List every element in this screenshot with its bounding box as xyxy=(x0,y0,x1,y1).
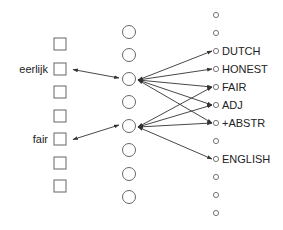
output-label: FAIR xyxy=(222,81,247,93)
output-unit-circle xyxy=(213,66,218,71)
hidden-layer xyxy=(123,26,136,204)
hidden-unit-circle xyxy=(123,26,136,39)
connection-arrows xyxy=(73,51,212,159)
hidden-unit-circle xyxy=(123,191,136,204)
output-unit-circle xyxy=(213,174,218,179)
input-unit-square xyxy=(54,110,66,122)
hidden-unit-circle xyxy=(123,73,136,86)
output-unit-circle xyxy=(213,30,218,35)
output-label: DUTCH xyxy=(222,45,261,57)
bidirectional-arrow xyxy=(73,125,119,140)
output-label: HONEST xyxy=(222,63,268,75)
output-unit-circle xyxy=(213,84,218,89)
bidirectional-arrow xyxy=(138,51,212,80)
output-layer: DUTCHHONESTFAIRADJ+ABSTRENGLISH xyxy=(213,12,270,215)
input-unit-square xyxy=(54,63,66,75)
hidden-unit-circle xyxy=(123,120,136,133)
output-unit-circle xyxy=(213,156,218,161)
hidden-unit-circle xyxy=(123,168,136,181)
bidirectional-arrow xyxy=(138,69,212,80)
output-label: ENGLISH xyxy=(222,153,270,165)
output-label: +ABSTR xyxy=(222,117,265,129)
hidden-unit-circle xyxy=(123,49,136,62)
bidirectional-arrow xyxy=(138,87,212,127)
input-unit-square xyxy=(54,157,66,169)
hidden-unit-circle xyxy=(123,144,136,157)
output-unit-circle xyxy=(213,192,218,197)
output-unit-circle xyxy=(213,12,218,17)
input-label: eerlijk xyxy=(19,63,48,75)
output-label: ADJ xyxy=(222,99,243,111)
bidirectional-arrow xyxy=(73,70,119,79)
hidden-unit-circle xyxy=(123,96,136,109)
output-unit-circle xyxy=(213,210,218,215)
input-layer: eerlijkfair xyxy=(19,38,66,192)
input-unit-square xyxy=(54,180,66,192)
network-diagram: eerlijkfair DUTCHHONESTFAIRADJ+ABSTRENGL… xyxy=(0,0,283,230)
input-unit-square xyxy=(54,86,66,98)
output-unit-circle xyxy=(213,102,218,107)
input-unit-square xyxy=(54,38,66,50)
input-label: fair xyxy=(33,133,49,145)
input-unit-square xyxy=(54,133,66,145)
bidirectional-arrow xyxy=(138,127,212,159)
output-unit-circle xyxy=(213,138,218,143)
output-unit-circle xyxy=(213,48,218,53)
output-unit-circle xyxy=(213,120,218,125)
